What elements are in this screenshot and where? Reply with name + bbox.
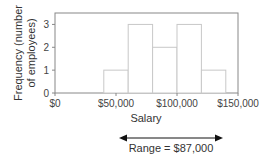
histogram-bar xyxy=(104,70,128,93)
x-tick-label: $100,000 xyxy=(156,98,198,109)
range-arrow xyxy=(119,135,223,142)
x-tick-label: $150,000 xyxy=(217,98,259,109)
arrow-left-icon xyxy=(119,135,127,142)
x-tick-label: $50,000 xyxy=(98,98,135,109)
histogram-bar xyxy=(153,47,177,93)
y-tick-label: 3 xyxy=(43,19,49,30)
y-tick-label: 2 xyxy=(43,42,49,53)
y-axis-label-line1: Frequency (number xyxy=(12,5,24,101)
y-axis: 0123 xyxy=(43,19,55,99)
histogram-bars xyxy=(104,24,226,93)
histogram-bar xyxy=(201,70,225,93)
histogram-chart: 0123 $0$50,000$100,000$150,000 Frequency… xyxy=(0,0,270,160)
x-axis: $0$50,000$100,000$150,000 xyxy=(49,93,259,109)
x-axis-label: Salary xyxy=(130,112,162,124)
y-tick-label: 0 xyxy=(43,88,49,99)
y-axis-label-line2: of employees) xyxy=(25,18,37,87)
arrow-right-icon xyxy=(215,135,223,142)
histogram-bar xyxy=(128,24,152,93)
x-tick-label: $0 xyxy=(49,98,61,109)
range-label: Range = $87,000 xyxy=(129,142,214,154)
histogram-bar xyxy=(177,24,201,93)
y-tick-label: 1 xyxy=(43,65,49,76)
